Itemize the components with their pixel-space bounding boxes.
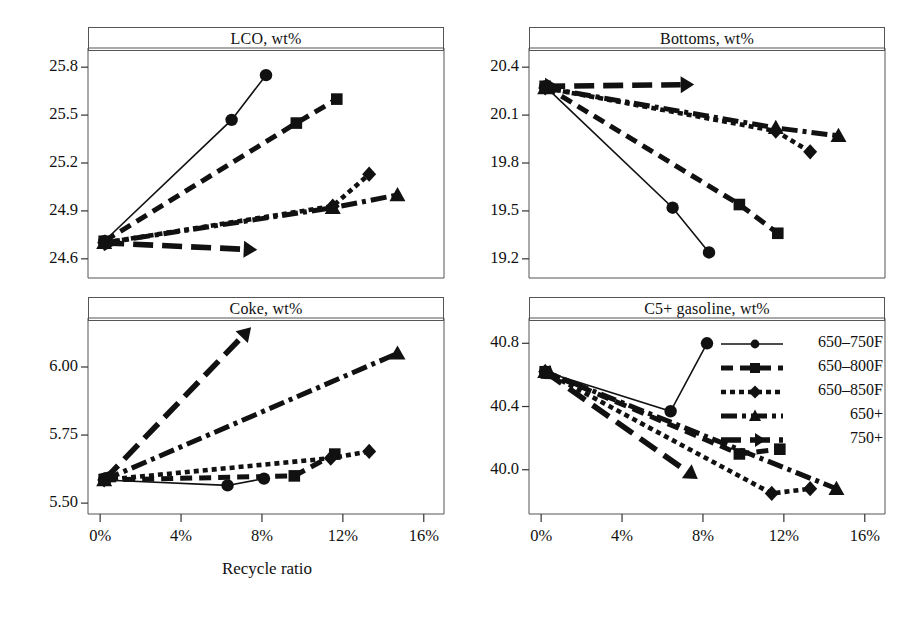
x-tick-label: 8%: [669, 526, 737, 546]
x-tick-label: 4%: [588, 526, 656, 546]
y-tick-label: 19.8: [457, 152, 519, 172]
x-tick-label: 8%: [228, 526, 296, 546]
y-tick-label: 25.2: [16, 152, 78, 172]
x-tick-label: 0%: [507, 526, 575, 546]
x-tick-label: 12%: [309, 526, 377, 546]
legend-marker-diamond: [749, 386, 762, 399]
y-tick-label: 19.5: [457, 200, 519, 220]
x-tick-label: 4%: [147, 526, 215, 546]
panel-plot-0: [88, 48, 444, 278]
y-tick-label: 5.50: [16, 492, 78, 512]
panel-title-text: LCO, wt%: [231, 30, 302, 48]
x-tick-label: 16%: [831, 526, 899, 546]
panel-title-text: C5+ gasoline, wt%: [644, 300, 770, 318]
panel-plot-1: [529, 48, 885, 278]
x-tick-label: 0%: [66, 526, 134, 546]
legend-marker-square: [750, 363, 760, 373]
y-tick-label: 20.4: [457, 56, 519, 76]
chart-figure: LCO, wt%24.624.925.225.525.8Bottoms, wt%…: [0, 0, 911, 631]
x-tick-label: 12%: [750, 526, 818, 546]
y-tick-label: 20.1: [457, 104, 519, 124]
y-tick-label: 24.9: [16, 200, 78, 220]
y-tick-label: 24.6: [16, 248, 78, 268]
panel-plot-2: [88, 318, 444, 514]
panel-title-text: Bottoms, wt%: [660, 30, 754, 48]
legend: [719, 332, 884, 452]
y-tick-label: 40.8: [457, 332, 519, 352]
y-tick-label: 19.2: [457, 248, 519, 268]
x-axis-title: Recycle ratio: [0, 559, 534, 579]
x-tick-label: 16%: [390, 526, 458, 546]
legend-marker-circle: [751, 340, 760, 349]
y-tick-label: 25.8: [16, 56, 78, 76]
y-tick-label: 6.00: [16, 356, 78, 376]
y-tick-label: 40.0: [457, 459, 519, 479]
y-tick-label: 5.75: [16, 424, 78, 444]
legend-marker-arrow: [755, 433, 766, 447]
y-tick-label: 25.5: [16, 104, 78, 124]
panel-title-text: Coke, wt%: [230, 300, 303, 318]
y-tick-label: 40.4: [457, 396, 519, 416]
